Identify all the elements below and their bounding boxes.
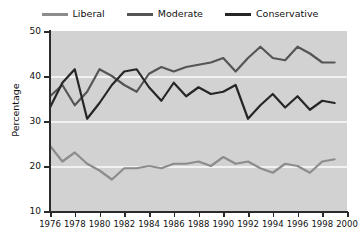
series-line-conservative — [50, 69, 335, 119]
x-tick-1984 — [149, 212, 151, 217]
y-tick-30 — [44, 121, 49, 123]
series-layer — [50, 31, 347, 211]
x-tick-1996 — [298, 212, 300, 217]
legend-item-moderate: Moderate — [127, 9, 203, 19]
series-line-liberal — [50, 146, 335, 180]
x-tick-1998 — [322, 212, 324, 217]
x-tick-1990 — [223, 212, 225, 217]
line-chart: Liberal Moderate Conservative Percentage… — [0, 0, 360, 248]
legend-label-conservative: Conservative — [256, 9, 318, 19]
x-tick-1994 — [273, 212, 275, 217]
plot-area — [50, 31, 347, 211]
x-tick-1982 — [124, 212, 126, 217]
legend-swatch-moderate — [127, 13, 153, 16]
x-tick-label-2000: 2000 — [330, 219, 360, 229]
legend-item-liberal: Liberal — [42, 9, 105, 19]
legend-swatch-conservative — [225, 13, 251, 16]
y-tick-label-50: 50 — [16, 27, 41, 36]
legend-swatch-liberal — [42, 13, 68, 16]
y-tick-40 — [44, 76, 49, 78]
y-tick-20 — [44, 166, 49, 168]
x-tick-1988 — [199, 212, 201, 217]
y-tick-label-30: 30 — [16, 117, 41, 126]
legend-label-liberal: Liberal — [73, 9, 105, 19]
legend-label-moderate: Moderate — [158, 9, 203, 19]
x-tick-1986 — [174, 212, 176, 217]
y-axis-title: Percentage — [11, 75, 21, 145]
x-tick-2000 — [347, 212, 349, 217]
y-tick-label-20: 20 — [16, 162, 41, 171]
y-axis-line — [49, 30, 51, 212]
y-tick-50 — [44, 31, 49, 33]
y-tick-label-40: 40 — [16, 72, 41, 81]
series-line-moderate — [50, 47, 335, 106]
x-tick-1976 — [50, 212, 52, 217]
chart-legend: Liberal Moderate Conservative — [0, 5, 360, 23]
legend-item-conservative: Conservative — [225, 9, 318, 19]
x-tick-1980 — [100, 212, 102, 217]
x-tick-1992 — [248, 212, 250, 217]
x-tick-1978 — [75, 212, 77, 217]
y-tick-label-10: 10 — [16, 207, 41, 216]
y-tick-10 — [44, 211, 49, 213]
